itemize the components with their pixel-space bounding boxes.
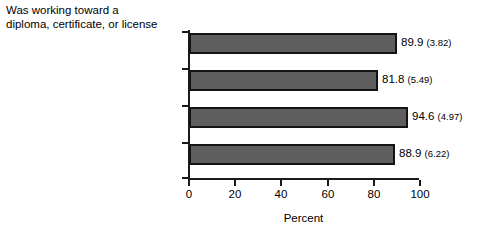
x-axis-tick — [280, 180, 282, 186]
bar-value-se: (5.49) — [408, 74, 433, 85]
y-axis-tick — [182, 31, 188, 33]
bar-value-label: 89.9 (3.82) — [401, 36, 451, 48]
bar-value-main: 81.8 — [382, 73, 404, 85]
x-axis-tick — [234, 180, 236, 186]
bar-value-main: 94.6 — [412, 110, 434, 122]
x-axis-tick-label: 20 — [229, 188, 242, 200]
y-axis-tick — [182, 177, 188, 179]
bar-value-se: (3.82) — [427, 37, 452, 48]
y-axis-tick — [182, 105, 188, 107]
bar-value-label: 94.6 (4.97) — [412, 110, 462, 122]
bar-value-main: 89.9 — [401, 36, 423, 48]
x-axis-tick — [188, 180, 190, 186]
bar-value-se: (4.97) — [438, 111, 463, 122]
x-axis-title: Percent — [188, 212, 419, 224]
x-axis-tick-label: 40 — [275, 188, 288, 200]
bar-any-postsecondary-school — [189, 33, 397, 54]
bar-2-year-or-community-college — [189, 70, 378, 91]
chart-group-heading: Was working toward a diploma, certificat… — [6, 3, 157, 31]
bar-value-main: 88.9 — [399, 147, 421, 159]
x-axis-tick — [327, 180, 329, 186]
x-axis-tick — [419, 180, 421, 186]
x-axis-tick — [373, 180, 375, 186]
bar-4-year-college — [189, 144, 395, 165]
x-axis-tick-label: 60 — [322, 188, 335, 200]
x-axis-tick-label: 80 — [368, 188, 381, 200]
y-axis-tick — [182, 142, 188, 144]
x-axis-tick-label: 0 — [186, 188, 192, 200]
x-axis-line — [188, 178, 419, 180]
bar-chart: Was working toward a diploma, certificat… — [0, 0, 503, 237]
y-axis-tick — [182, 68, 188, 70]
bar-value-label: 88.9 (6.22) — [399, 147, 449, 159]
bar-vocational-business-or-technical-school — [189, 107, 408, 128]
x-axis-tick-label: 100 — [410, 188, 429, 200]
bar-value-label: 81.8 (5.49) — [382, 73, 432, 85]
bar-value-se: (6.22) — [425, 148, 450, 159]
